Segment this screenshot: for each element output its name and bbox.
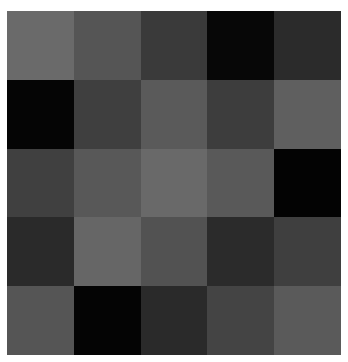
grid-cell xyxy=(274,286,341,355)
grid-cell xyxy=(274,11,341,80)
grid-cell xyxy=(7,149,74,218)
grid-cell xyxy=(74,11,141,80)
grid-cell xyxy=(141,80,208,149)
grid-cell xyxy=(7,11,74,80)
grid-cell xyxy=(274,149,341,218)
grid-cell xyxy=(207,149,274,218)
grid-cell xyxy=(207,80,274,149)
grid-cell xyxy=(207,286,274,355)
grid-cell xyxy=(141,217,208,286)
grid-cell xyxy=(207,217,274,286)
grid-cell xyxy=(7,80,74,149)
gray-tile-grid xyxy=(7,11,341,355)
grid-cell xyxy=(74,80,141,149)
grid-cell xyxy=(141,286,208,355)
grid-cell xyxy=(141,11,208,80)
grid-cell xyxy=(7,286,74,355)
grid-cell xyxy=(274,217,341,286)
grid-cell xyxy=(141,149,208,218)
grid-cell xyxy=(74,217,141,286)
grid-cell xyxy=(7,217,74,286)
grid-cell xyxy=(74,286,141,355)
grid-cell xyxy=(207,11,274,80)
grid-cell xyxy=(274,80,341,149)
grid-cell xyxy=(74,149,141,218)
